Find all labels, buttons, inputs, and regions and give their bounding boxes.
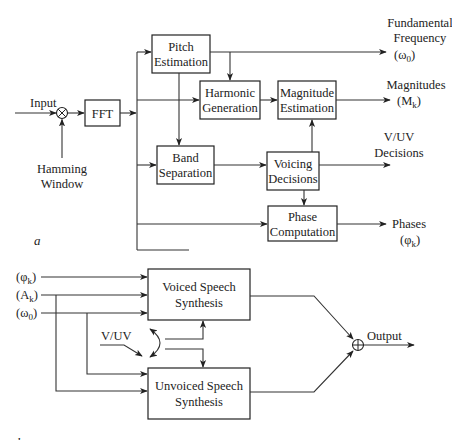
phik-label: (φk) bbox=[400, 233, 420, 249]
voiced-to-sum bbox=[250, 296, 353, 339]
voicing-label-2: Decisions bbox=[268, 172, 317, 186]
band-label-2: Separation bbox=[159, 166, 213, 180]
vuv-pointer-arrow bbox=[100, 345, 142, 356]
omega0-label: (ω0) bbox=[394, 48, 415, 64]
voicing-label-1: Voicing bbox=[274, 157, 313, 171]
window-label: Window bbox=[41, 177, 84, 191]
output-label: Output bbox=[367, 329, 402, 343]
harmonic-label-2: Generation bbox=[202, 101, 258, 115]
harmonic-label-1: Harmonic bbox=[205, 86, 255, 100]
input-label: Input bbox=[30, 96, 57, 110]
pitch-estimation-block: Pitch Estimation bbox=[152, 35, 210, 73]
band-separation-block: Band Separation bbox=[157, 146, 214, 184]
vuv-label: V/UV bbox=[384, 130, 415, 144]
magnitudes-label: Magnitudes bbox=[386, 78, 445, 92]
phik-input-label: (φk) bbox=[16, 270, 36, 286]
phase-label-1: Phase bbox=[288, 210, 318, 224]
unvoiced-synthesis-block: Unvoiced Speech Synthesis bbox=[148, 368, 250, 419]
multiplier-icon bbox=[57, 108, 68, 119]
voicing-decisions-block: Voicing Decisions bbox=[267, 152, 319, 190]
ak-to-unvoiced bbox=[56, 295, 147, 391]
summer-icon bbox=[353, 340, 364, 351]
voiced-label-1: Voiced Speech bbox=[162, 280, 236, 294]
phase-computation-block: Phase Computation bbox=[268, 206, 337, 241]
fundamental-label: Fundamental bbox=[387, 16, 452, 30]
harmonic-generation-block: Harmonic Generation bbox=[200, 81, 260, 119]
omega0-input-label: (ω0) bbox=[16, 306, 37, 322]
pitch-label-1: Pitch bbox=[168, 40, 194, 54]
hamming-label: Hamming bbox=[37, 162, 88, 176]
diagram-b: (φk) (Ak) (ω0) Voiced Speech Synthesis U… bbox=[16, 269, 414, 440]
unvoiced-label-2: Synthesis bbox=[175, 395, 223, 409]
ak-input-label: (Ak) bbox=[16, 288, 38, 304]
magnitude-label-2: Estimation bbox=[280, 101, 335, 115]
switch-to-unvoiced bbox=[165, 349, 203, 367]
omega0-to-unvoiced bbox=[87, 313, 147, 374]
unvoiced-label-1: Unvoiced Speech bbox=[155, 379, 244, 393]
speech-coder-block-diagram: Input Hamming Window FFT Pitch Estimati bbox=[0, 0, 452, 440]
vuv-switch-label: V/UV bbox=[101, 329, 132, 343]
figure-label-b: b bbox=[17, 435, 24, 440]
magnitude-estimation-block: Magnitude Estimation bbox=[278, 81, 336, 119]
mk-label: (Mk) bbox=[397, 94, 421, 110]
magnitude-label-1: Magnitude bbox=[280, 86, 335, 100]
voiced-label-2: Synthesis bbox=[175, 296, 223, 310]
fft-label: FFT bbox=[92, 107, 114, 121]
diagram-a: Input Hamming Window FFT Pitch Estimati bbox=[15, 16, 452, 250]
band-label-1: Band bbox=[172, 151, 199, 165]
voiced-synthesis-block: Voiced Speech Synthesis bbox=[148, 269, 250, 320]
unvoiced-to-sum bbox=[250, 351, 353, 392]
fft-block: FFT bbox=[85, 100, 120, 126]
phase-label-2: Computation bbox=[270, 225, 336, 239]
switch-toggle-icon bbox=[150, 329, 160, 357]
decisions-label: Decisions bbox=[374, 146, 423, 160]
figure-label-a: a bbox=[34, 233, 41, 248]
switch-to-voiced bbox=[165, 321, 203, 339]
frequency-label: Frequency bbox=[394, 31, 448, 45]
phases-label: Phases bbox=[392, 217, 426, 231]
pitch-label-2: Estimation bbox=[154, 55, 209, 69]
